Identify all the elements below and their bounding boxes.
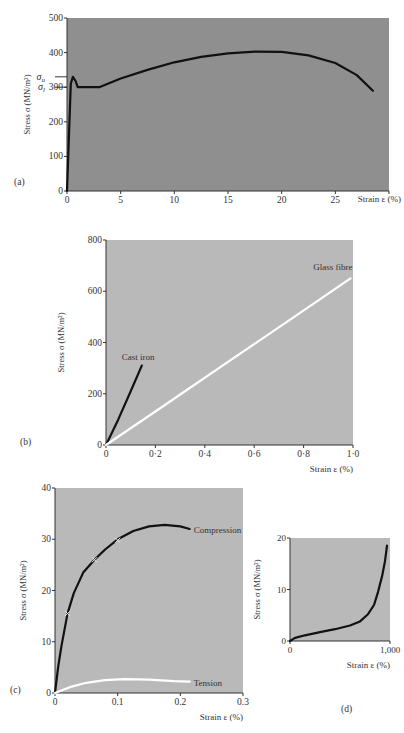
x-tick-label: 0.1 [112,697,124,707]
panel-label: (c) [10,685,21,696]
chart-panel-d: 0102001,000Strain ε (%)Stress σ (MN/m²)(… [252,533,401,715]
y-tick-label: 0 [97,440,102,450]
series-label: Tension [194,678,223,688]
series-label: Cast iron [122,352,155,362]
x-tick-label: 0.2 [174,697,186,707]
y-tick-label: 0 [282,636,287,646]
x-tick-label: 25 [331,195,341,205]
y-tick-label: 500 [49,13,64,23]
panel-label: (a) [14,177,25,188]
x-tick-label: 0 [288,645,293,655]
plot-area [55,488,243,693]
x-axis-label: Strain ε (%) [200,712,243,722]
y-tick-label: 400 [88,338,103,348]
x-tick-label: 20 [277,195,287,205]
y-tick-label: 0 [58,186,63,196]
y-tick-label: 100 [49,151,64,161]
y-tick-label: 200 [88,389,103,399]
y-axis-label: Stress σ (MN/m²) [22,74,32,134]
plot-area [67,18,389,191]
x-axis-label: Strain ε (%) [310,464,353,474]
y-tick-label: 800 [88,235,103,245]
x-tick-label: 0 [53,697,58,707]
y-tick-label: 200 [49,117,64,127]
x-tick-label: 0·4 [198,449,211,459]
series-label: Glass fibre [313,262,352,272]
x-tick-label: 1·0 [347,449,360,459]
x-tick-label: 5 [118,195,123,205]
x-tick-label: 0.3 [237,697,249,707]
x-tick-label: 1,000 [380,645,401,655]
plot-area [290,538,390,641]
x-tick-label: 0 [104,449,109,459]
y-axis-label: Stress σ (MN/m²) [18,560,28,620]
x-tick-label: 0·8 [297,449,310,459]
panel-label: (d) [341,704,352,715]
x-axis-label: Strain ε (%) [347,660,390,670]
x-tick-label: 15 [223,195,233,205]
y-tick-label: 10 [42,637,52,647]
y-axis-label: Stress σ (MN/m²) [56,312,66,372]
x-tick-label: 0 [65,195,70,205]
series-label: Compression [194,525,242,535]
y-tick-label: 20 [42,586,52,596]
y-tick-label: 600 [88,286,103,296]
chart-panel-a: 01002003004005000510152025Strain ε (%)St… [14,13,401,205]
y-tick-label: 0 [46,688,51,698]
panel-label: (b) [20,437,31,448]
x-tick-label: 10 [170,195,180,205]
y-axis-label: Stress σ (MN/m²) [252,559,262,619]
chart-panel-c: 01020304000.10.20.3Strain ε (%)Stress σ … [10,483,249,722]
x-axis-label: Strain ε (%) [358,194,401,204]
x-tick-label: 0·6 [248,449,261,459]
y-tick-label: 30 [42,534,52,544]
y-tick-label: 40 [42,483,52,493]
x-tick-label: 0·2 [149,449,162,459]
y-tick-label: 10 [277,585,287,595]
chart-panel-b: 020040060080000·20·40·60·81·0Strain ε (%… [20,235,360,474]
stress-strain-figure: 01002003004005000510152025Strain ε (%)St… [0,0,404,733]
y-tick-label: 20 [277,533,287,543]
y-tick-label: 400 [49,48,64,58]
